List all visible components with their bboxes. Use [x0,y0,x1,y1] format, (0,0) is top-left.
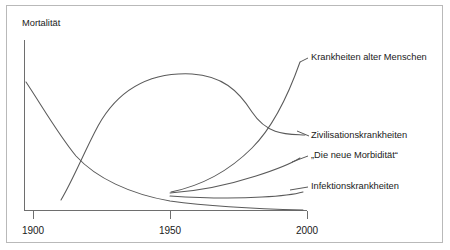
x-tick-label-1900: 1900 [22,225,45,236]
leader-krankheiten-alter-menschen [300,58,308,62]
x-tick-label-1950: 1950 [159,225,182,236]
curve-infektionskrankheiten-historic [26,82,303,210]
chart-canvas: Mortalität 1900 1950 2000 Krankheiten al… [0,0,450,250]
chart-figure: Mortalität 1900 1950 2000 Krankheiten al… [0,0,450,250]
curve-zivilisationskrankheiten [61,74,305,200]
curve-infektionskrankheiten-modern [170,192,303,198]
label-zivilisationskrankheiten: Zivilisationskrankheiten [311,130,407,140]
label-die-neue-morbiditaet: „Die neue Morbidität“ [311,150,398,160]
leader-infektionskrankheiten [290,187,308,190]
leader-die-neue-morbiditaet [292,156,308,162]
label-infektionskrankheiten: Infektionskrankheiten [311,181,399,191]
y-axis-title: Mortalität [22,18,61,28]
x-tick-label-2000: 2000 [296,225,319,236]
curve-krankheiten-alter-menschen [171,62,300,192]
label-krankheiten-alter-menschen: Krankheiten alter Menschen [311,52,427,62]
